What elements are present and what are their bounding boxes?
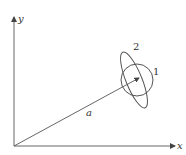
diagram-canvas: y x a 1 2: [0, 0, 186, 155]
vector-a: [14, 78, 139, 146]
x-axis-label: x: [177, 140, 183, 151]
y-axis-label: y: [17, 13, 24, 24]
circle-label: 1: [153, 66, 159, 77]
vector-label: a: [86, 107, 92, 118]
ellipse-label: 2: [133, 41, 139, 52]
